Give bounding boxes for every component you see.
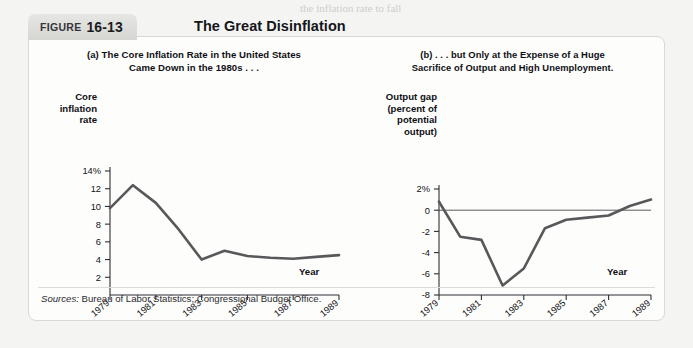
figure-panel: (a) The Core Inflation Rate in the Unite… (28, 36, 665, 321)
y-tick-label: -6 (422, 269, 430, 279)
y-tick-label: -2 (422, 227, 430, 237)
y-tick-label: 2% (417, 184, 430, 194)
chart-b-x-axis-title: Year (607, 266, 627, 277)
y-tick-label: 0 (425, 206, 430, 216)
x-tick-label: 1983 (503, 298, 525, 319)
y-tick-label: -4 (422, 248, 430, 258)
figure-label: FIGURE (40, 21, 81, 33)
y-tick-label: 8 (96, 220, 101, 230)
y-tick-label: -8 (422, 290, 430, 300)
figure-header: FIGURE 16-13 (28, 14, 137, 40)
y-tick-label: 12 (91, 184, 101, 194)
figure-number: 16-13 (86, 19, 122, 35)
sources-prefix: Sources: (41, 293, 79, 304)
chart-a-x-axis-title: Year (299, 266, 319, 277)
y-tick-label: 4 (96, 255, 101, 265)
y-tick-label: 2 (96, 273, 101, 283)
sources-text: Bureau of Labor Statistics; Congressiona… (79, 293, 321, 304)
panel-divider (38, 287, 655, 288)
y-tick-label: 6 (96, 237, 101, 247)
data-line (110, 185, 339, 259)
sources-note: Sources: Bureau of Labor Statistics; Con… (41, 293, 321, 304)
y-tick-label: 14% (82, 166, 101, 176)
page-bleed-text: the inflation rate to fall (300, 2, 401, 14)
chart-b-plot: -8-6-4-202%197919811983198519871989 (359, 37, 666, 287)
y-tick-label: 10 (91, 202, 101, 212)
x-tick-label: 1989 (318, 298, 340, 319)
x-tick-label: 1989 (630, 298, 652, 319)
x-tick-label: 1979 (418, 298, 440, 319)
x-tick-label: 1987 (588, 298, 610, 319)
figure-title: The Great Disinflation (194, 18, 346, 34)
x-tick-label: 1981 (460, 298, 482, 319)
x-tick-label: 1985 (545, 298, 567, 319)
